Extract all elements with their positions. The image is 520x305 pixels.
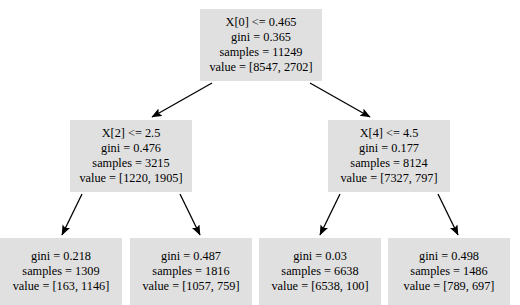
node-value: value = [1220, 1905] [79,171,182,186]
node-gini: gini = 0.177 [359,141,419,156]
node-samples: samples = 6638 [281,264,358,279]
node-samples: samples = 11249 [220,45,303,60]
node-gini: gini = 0.476 [101,141,161,156]
tree-edge-left-to-leaf1 [62,194,82,235]
node-value: value = [163, 1146] [13,279,110,294]
tree-node-right: X[4] <= 4.5gini = 0.177samples = 8124val… [328,120,450,192]
node-samples: samples = 3215 [92,156,169,171]
node-gini: gini = 0.365 [231,30,291,45]
node-value: value = [7327, 797] [340,171,437,186]
node-condition: X[4] <= 4.5 [360,126,419,141]
node-condition: X[2] <= 2.5 [102,126,161,141]
tree-node-leaf1: gini = 0.218samples = 1309value = [163, … [0,238,122,305]
tree-edge-right-to-leaf3 [320,194,340,235]
tree-node-leaf4: gini = 0.498samples = 1486value = [789, … [388,238,510,305]
node-samples: samples = 1309 [22,264,99,279]
node-value: value = [789, 697] [404,279,495,294]
tree-edge-root-to-right [310,83,370,117]
node-gini: gini = 0.498 [419,249,479,264]
node-value: value = [6538, 100] [271,279,368,294]
node-gini: gini = 0.487 [161,249,221,264]
tree-node-leaf2: gini = 0.487samples = 1816value = [1057,… [130,238,252,305]
node-gini: gini = 0.03 [293,249,347,264]
node-gini: gini = 0.218 [31,249,91,264]
node-condition: X[0] <= 0.465 [226,15,297,30]
tree-edge-right-to-leaf4 [438,194,458,235]
decision-tree-diagram: X[0] <= 0.465gini = 0.365samples = 11249… [0,0,520,305]
node-samples: samples = 1486 [410,264,487,279]
node-samples: samples = 8124 [350,156,427,171]
tree-node-leaf3: gini = 0.03samples = 6638value = [6538, … [259,238,381,305]
node-value: value = [8547, 2702] [209,60,312,75]
tree-node-root: X[0] <= 0.465gini = 0.365samples = 11249… [200,9,322,81]
node-value: value = [1057, 759] [142,279,239,294]
tree-edge-root-to-left [152,83,212,117]
tree-edge-left-to-leaf2 [180,194,200,235]
node-samples: samples = 1816 [152,264,229,279]
tree-node-left: X[2] <= 2.5gini = 0.476samples = 3215val… [70,120,192,192]
